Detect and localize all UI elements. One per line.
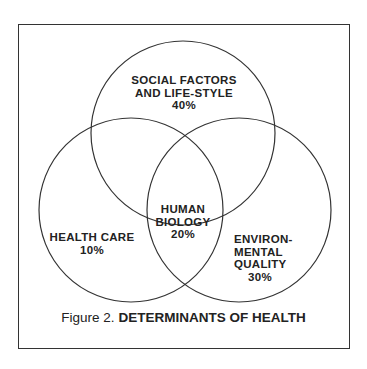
environment-line2: MENTAL — [222, 246, 312, 259]
caption-title: DETERMINANTS OF HEALTH — [118, 310, 305, 325]
figure-caption: Figure 2. DETERMINANTS OF HEALTH — [0, 310, 367, 325]
social-line1: SOCIAL FACTORS — [113, 74, 255, 87]
center-value: 20% — [143, 228, 223, 241]
social-value: 40% — [113, 99, 255, 112]
health-care-value: 10% — [42, 244, 142, 257]
health-care-label: HEALTH CARE 10% — [42, 231, 142, 256]
center-line1: HUMAN — [143, 203, 223, 216]
environment-line3: QUALITY — [222, 258, 312, 271]
environment-line1: ENVIRON- — [222, 233, 312, 246]
social-line2: AND LIFE-STYLE — [113, 87, 255, 100]
center-line2: BIOLOGY — [143, 216, 223, 229]
caption-prefix: Figure 2. — [61, 310, 114, 325]
health-care-line1: HEALTH CARE — [42, 231, 142, 244]
environment-label: ENVIRON- MENTAL QUALITY 30% — [222, 233, 312, 283]
social-circle — [91, 41, 275, 225]
social-label: SOCIAL FACTORS AND LIFE-STYLE 40% — [113, 74, 255, 112]
center-label: HUMAN BIOLOGY 20% — [143, 203, 223, 241]
environment-value: 30% — [222, 271, 312, 284]
